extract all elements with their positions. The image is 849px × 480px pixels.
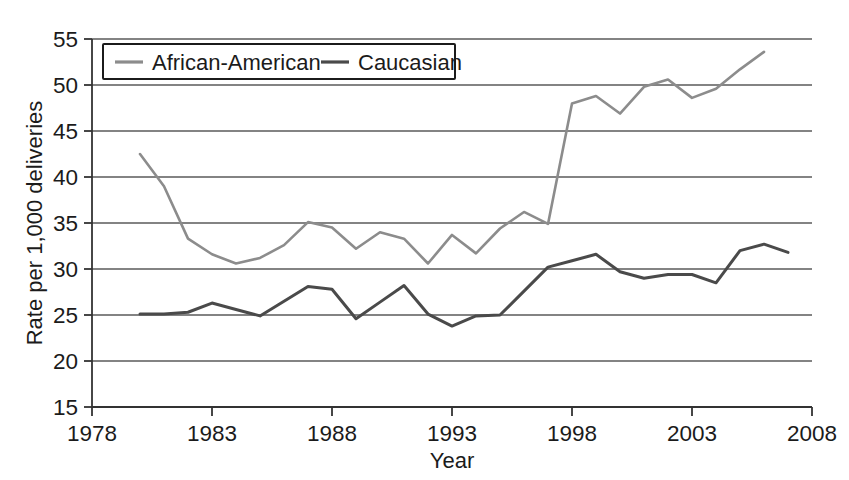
x-tick-label-1998: 1998 xyxy=(547,421,597,446)
x-tick-label-1993: 1993 xyxy=(427,421,477,446)
data-series-group xyxy=(140,52,788,326)
x-tick-label-1978: 1978 xyxy=(67,421,117,446)
x-axis-tick-labels: 1978198319881993199820032008 xyxy=(67,421,837,446)
x-axis-ticks xyxy=(92,407,812,416)
x-axis-title: Year xyxy=(430,448,474,473)
x-tick-label-1988: 1988 xyxy=(307,421,357,446)
x-tick-label-2003: 2003 xyxy=(667,421,717,446)
legend: African-American Caucasian xyxy=(103,44,462,79)
y-tick-label-15: 15 xyxy=(53,395,78,420)
x-tick-label-1983: 1983 xyxy=(187,421,237,446)
line-chart: 152025303540455055 197819831988199319982… xyxy=(0,0,849,480)
y-tick-label-35: 35 xyxy=(53,211,78,236)
y-tick-label-30: 30 xyxy=(53,257,78,282)
series-line-caucasian xyxy=(140,244,788,326)
y-tick-label-45: 45 xyxy=(53,119,78,144)
y-tick-label-50: 50 xyxy=(53,73,78,98)
y-tick-label-25: 25 xyxy=(53,303,78,328)
series-line-african-american xyxy=(140,52,764,264)
y-tick-label-55: 55 xyxy=(53,27,78,52)
y-axis-tick-labels: 152025303540455055 xyxy=(53,27,78,420)
x-tick-label-2008: 2008 xyxy=(787,421,837,446)
y-axis-title: Rate per 1,000 deliveries xyxy=(22,101,47,346)
legend-label-african-american: African-American xyxy=(152,50,321,75)
legend-label-caucasian: Caucasian xyxy=(358,50,462,75)
y-axis-ticks xyxy=(84,39,92,407)
y-tick-label-20: 20 xyxy=(53,349,78,374)
chart-container: 152025303540455055 197819831988199319982… xyxy=(0,0,849,480)
y-tick-label-40: 40 xyxy=(53,165,78,190)
